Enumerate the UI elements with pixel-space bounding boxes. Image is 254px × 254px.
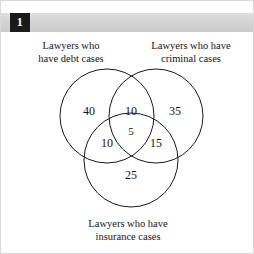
- venn-value-all-three: 5: [128, 125, 134, 137]
- venn-value-debt-only: 40: [83, 104, 95, 118]
- venn-label-insurance-line1: Lawyers who have: [58, 217, 198, 230]
- question-card: 1 Lawyers who have debt cases Lawyers wh…: [0, 0, 254, 254]
- venn-value-debt-criminal: 10: [125, 104, 137, 118]
- venn-value-insurance-only: 25: [125, 168, 137, 182]
- venn-label-insurance: Lawyers who have insurance cases: [58, 217, 198, 243]
- venn-value-criminal-insurance: 15: [150, 136, 162, 150]
- venn-value-debt-insurance: 10: [101, 136, 113, 150]
- venn-label-insurance-line2: insurance cases: [58, 230, 198, 243]
- venn-value-criminal-only: 35: [169, 104, 181, 118]
